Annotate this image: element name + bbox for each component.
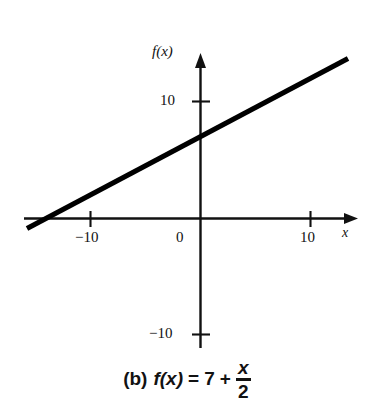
fraction-numerator: x bbox=[236, 358, 251, 378]
caption-fraction: x 2 bbox=[236, 358, 251, 401]
x-axis-label: x bbox=[342, 226, 348, 240]
x-axis-arrowhead bbox=[344, 213, 358, 224]
y-tick-label-10: 10 bbox=[160, 93, 175, 108]
caption-index: (b) bbox=[123, 368, 147, 390]
caption-equals-sign: = bbox=[188, 368, 199, 390]
caption-constant-term: 7 bbox=[204, 368, 215, 390]
caption-plus-operator: + bbox=[220, 368, 231, 390]
y-tick-label-neg10: −10 bbox=[149, 326, 172, 341]
figure-container: f(x) x 10 −10 −10 0 10 (b) f(x) = 7 + x … bbox=[0, 0, 374, 409]
x-tick-label-10: 10 bbox=[300, 230, 315, 245]
x-tick-label-neg10: −10 bbox=[75, 230, 98, 245]
y-axis-arrowhead bbox=[195, 53, 206, 68]
caption-function-name: f(x) bbox=[153, 368, 183, 390]
function-line bbox=[27, 59, 348, 229]
y-axis-label: f(x) bbox=[152, 44, 173, 59]
figure-caption: (b) f(x) = 7 + x 2 bbox=[0, 357, 374, 400]
fraction-denominator: 2 bbox=[236, 381, 251, 401]
x-tick-label-origin: 0 bbox=[176, 230, 184, 245]
graph-plot bbox=[0, 0, 374, 370]
